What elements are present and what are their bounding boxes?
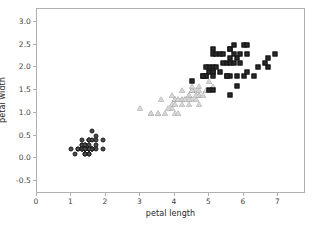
- data-point-setosa: [69, 147, 74, 152]
- data-point-virginica: [241, 74, 246, 79]
- data-point-setosa: [90, 129, 95, 134]
- data-point-virginica: [245, 69, 250, 74]
- data-point-virginica: [235, 83, 240, 88]
- x-tick-label: 0: [34, 197, 39, 206]
- data-point-virginica: [228, 92, 233, 97]
- data-point-virginica: [224, 74, 229, 79]
- x-tick-label: 4: [172, 197, 177, 206]
- x-tick-label: 5: [206, 197, 211, 206]
- data-point-versicolor: [162, 110, 168, 115]
- data-point-virginica: [252, 74, 257, 79]
- data-point-virginica: [221, 60, 226, 65]
- data-point-virginica: [266, 65, 271, 70]
- y-tick-mark: [33, 112, 36, 113]
- data-point-virginica: [238, 60, 243, 65]
- x-tick-mark: [36, 193, 37, 196]
- y-tick-label: 0.5: [19, 130, 31, 139]
- data-point-virginica: [214, 51, 219, 56]
- y-tick-mark: [33, 180, 36, 181]
- data-point-versicolor: [179, 88, 185, 93]
- x-tick-mark: [105, 193, 106, 196]
- data-point-versicolor: [200, 92, 206, 97]
- y-axis-label: petal width: [0, 77, 7, 123]
- y-tick-label: 1.0: [19, 107, 31, 116]
- data-point-versicolor: [175, 97, 181, 102]
- data-point-versicolor: [158, 97, 164, 102]
- data-point-setosa: [83, 151, 88, 156]
- data-point-versicolor: [137, 106, 143, 111]
- data-point-versicolor: [172, 101, 178, 106]
- y-tick-label: 3.0: [19, 16, 31, 25]
- data-point-virginica: [255, 65, 260, 70]
- data-point-virginica: [214, 65, 219, 70]
- data-point-versicolor: [148, 110, 154, 115]
- data-point-versicolor: [179, 101, 185, 106]
- data-point-virginica: [245, 51, 250, 56]
- data-point-setosa: [100, 138, 105, 143]
- scatter-plot-area: [37, 9, 304, 192]
- data-point-virginica: [235, 74, 240, 79]
- data-point-virginica: [272, 51, 277, 56]
- data-point-virginica: [228, 56, 233, 61]
- x-tick-label: 2: [103, 197, 108, 206]
- figure-canvas: 01234567-0.50.00.51.01.52.02.53.0 petal …: [0, 0, 313, 229]
- data-point-virginica: [221, 51, 226, 56]
- x-tick-mark: [243, 193, 244, 196]
- y-tick-mark: [33, 157, 36, 158]
- y-tick-label: 2.5: [19, 39, 31, 48]
- data-point-virginica: [200, 74, 205, 79]
- x-tick-mark: [208, 193, 209, 196]
- data-point-virginica: [228, 60, 233, 65]
- data-point-versicolor: [193, 92, 199, 97]
- plot-axes: [36, 8, 305, 193]
- data-point-setosa: [100, 147, 105, 152]
- x-axis-label: petal length: [36, 209, 305, 218]
- data-point-virginica: [245, 42, 250, 47]
- data-point-versicolor: [155, 110, 161, 115]
- x-tick-label: 3: [137, 197, 142, 206]
- data-point-virginica: [190, 78, 195, 83]
- y-tick-label: -0.5: [16, 176, 31, 185]
- x-tick-mark: [70, 193, 71, 196]
- data-point-versicolor: [186, 101, 192, 106]
- y-tick-mark: [33, 135, 36, 136]
- x-tick-label: 1: [68, 197, 73, 206]
- x-tick-mark: [277, 193, 278, 196]
- data-point-versicolor: [196, 101, 202, 106]
- data-point-virginica: [210, 88, 215, 93]
- data-point-versicolor: [189, 83, 195, 88]
- data-point-virginica: [266, 56, 271, 61]
- data-point-versicolor: [182, 97, 188, 102]
- y-tick-mark: [33, 44, 36, 45]
- data-point-virginica: [238, 51, 243, 56]
- x-tick-label: 6: [240, 197, 245, 206]
- data-point-setosa: [72, 151, 77, 156]
- y-tick-label: 2.0: [19, 62, 31, 71]
- x-tick-label: 7: [275, 197, 280, 206]
- data-point-virginica: [231, 42, 236, 47]
- y-tick-mark: [33, 21, 36, 22]
- data-point-virginica: [228, 47, 233, 52]
- data-point-virginica: [210, 74, 215, 79]
- x-tick-mark: [139, 193, 140, 196]
- y-tick-mark: [33, 66, 36, 67]
- x-tick-mark: [174, 193, 175, 196]
- data-point-setosa: [83, 147, 88, 152]
- y-tick-label: 1.5: [19, 85, 31, 94]
- y-tick-label: 0.0: [19, 153, 31, 162]
- data-point-versicolor: [175, 110, 181, 115]
- data-point-virginica: [217, 69, 222, 74]
- y-tick-mark: [33, 89, 36, 90]
